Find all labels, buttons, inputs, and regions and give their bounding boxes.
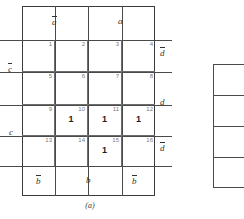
kmap-cell[interactable]: 8	[122, 72, 155, 105]
kmap-label-b-complement-left: b	[36, 175, 41, 186]
kmap-label-c: c	[9, 127, 13, 137]
kmap-cell-index: 10	[78, 105, 85, 113]
kmap-cell[interactable]: 2	[55, 40, 88, 72]
kmap-cell-value: 1	[88, 145, 121, 155]
kmap-cell-index: 14	[78, 136, 85, 144]
kmap-label-d-complement-bottom: d	[160, 142, 165, 153]
kmap-cell-grid: 1 2 3 4 5 6 7 8	[22, 40, 155, 166]
kmap-cell[interactable]: 5	[22, 72, 55, 105]
side-table-row	[214, 65, 244, 96]
kmap-cell[interactable]: 6	[55, 72, 88, 105]
kmap-cell-index: 2	[82, 40, 85, 48]
kmap-cell[interactable]: 16	[122, 136, 155, 166]
side-table-row	[214, 158, 244, 189]
kmap-cell[interactable]: 12 1	[122, 105, 155, 136]
kmap-cell[interactable]: 4	[122, 40, 155, 72]
kmap-cell[interactable]: 14	[55, 136, 88, 166]
side-table-row	[214, 96, 244, 127]
kmap-cell-index: 8	[150, 72, 153, 80]
kmap-cell-index: 7	[116, 72, 119, 80]
kmap-cell-index: 3	[116, 40, 119, 48]
kmap-cell[interactable]: 11 1	[88, 105, 122, 136]
kmap-label-b: b	[86, 175, 91, 185]
kmap-cell-index: 16	[146, 136, 153, 144]
kmap-cell-value: 1	[88, 114, 121, 124]
kmap-cell-index: 15	[112, 136, 119, 144]
karnaugh-map-figure: 1 2 3 4 5 6 7 8	[0, 0, 244, 219]
kmap-cell-index: 1	[49, 40, 52, 48]
kmap-cell[interactable]: 1	[22, 40, 55, 72]
kmap-cell-index: 6	[82, 72, 85, 80]
kmap-cell-index: 9	[49, 105, 52, 113]
kmap-cell[interactable]: 13	[22, 136, 55, 166]
kmap-label-d-complement-top: d	[160, 47, 165, 58]
figure-caption: (a)	[0, 201, 180, 210]
kmap-label-c-complement: c	[8, 63, 12, 74]
kmap-cell-index: 12	[146, 105, 153, 113]
kmap-cell-value: 1	[122, 114, 155, 124]
kmap-cell-value: 1	[55, 114, 87, 124]
side-table-row	[214, 127, 244, 158]
kmap-cell-index: 5	[49, 72, 52, 80]
side-table-partial	[213, 64, 244, 188]
kmap-cell[interactable]: 3	[88, 40, 122, 72]
kmap-label-d: d	[160, 97, 165, 107]
kmap-label-a: a	[118, 16, 123, 26]
kmap-cell-index: 13	[45, 136, 52, 144]
kmap-cell-index: 4	[150, 40, 153, 48]
kmap-cell[interactable]: 7	[88, 72, 122, 105]
kmap-label-a-complement: a	[52, 16, 57, 27]
kmap-cell[interactable]: 9	[22, 105, 55, 136]
kmap-cell-index: 11	[113, 105, 119, 113]
kmap-hline-bottom	[0, 166, 172, 167]
kmap-cell[interactable]: 15 1	[88, 136, 122, 166]
kmap-label-b-complement-right: b	[132, 175, 137, 186]
kmap-cell[interactable]: 10 1	[55, 105, 88, 136]
